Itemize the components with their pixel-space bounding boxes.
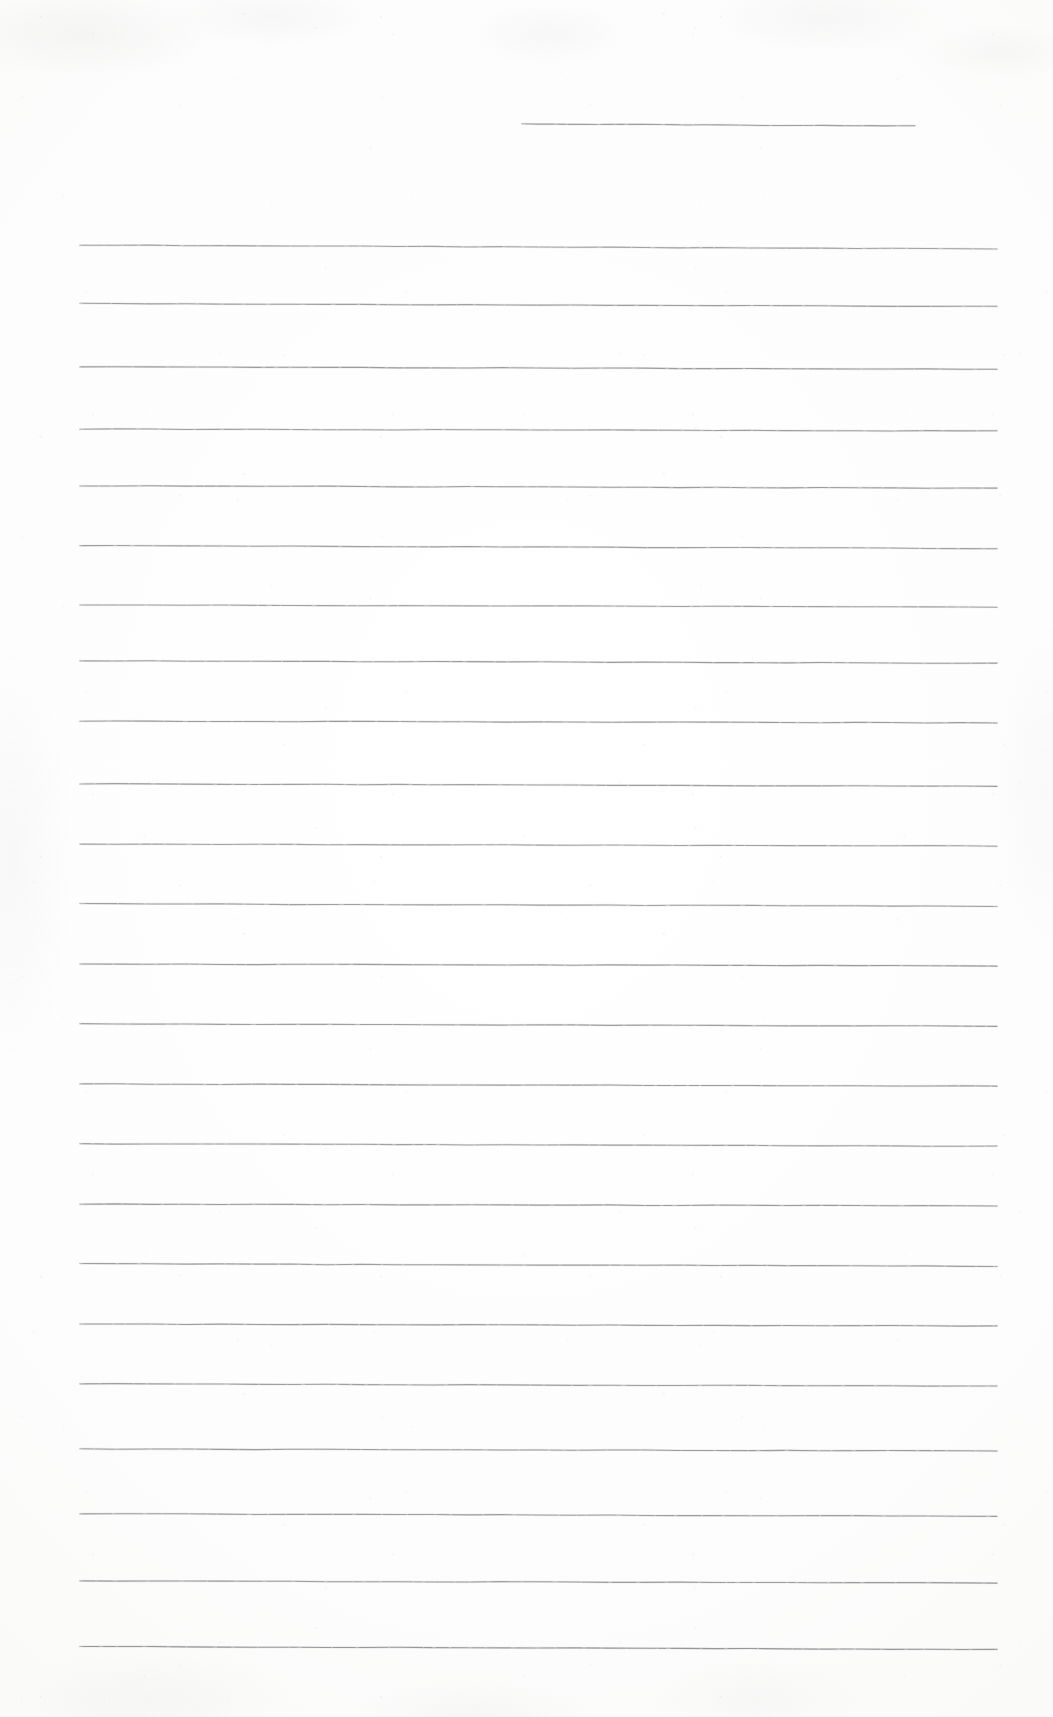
rule-line <box>80 481 997 496</box>
rule-line <box>80 1079 997 1093</box>
rule-line <box>80 241 997 257</box>
rule-line-ink <box>80 1319 997 1333</box>
rule-line <box>80 362 997 377</box>
rule-line-ink <box>80 899 997 914</box>
rule-line-ink <box>80 1509 997 1524</box>
rule-line <box>80 899 997 914</box>
rule-line-ink <box>80 481 997 496</box>
rule-line-ink <box>80 1642 997 1657</box>
rule-line-ink <box>80 299 997 314</box>
rule-line <box>80 716 997 730</box>
rule-line-ink <box>80 1079 997 1093</box>
rule-line-ink <box>80 241 997 257</box>
rule-line <box>80 424 997 438</box>
rule-line <box>80 656 997 671</box>
rule-line-ink <box>80 716 997 730</box>
rule-line-ink <box>80 600 997 614</box>
rule-line <box>80 839 997 853</box>
rule-line <box>80 299 997 314</box>
rule-line-ink <box>80 656 997 671</box>
scanned-page <box>0 0 1053 1717</box>
rule-line-ink <box>80 1444 997 1458</box>
rule-line <box>80 1576 997 1590</box>
rule-line-ink <box>80 424 997 438</box>
rule-line-ink <box>80 1139 997 1154</box>
rule-line <box>80 1019 997 1034</box>
rule-line <box>80 959 997 973</box>
rule-line-ink <box>80 1019 997 1034</box>
rule-line <box>80 1139 997 1154</box>
rule-line <box>80 600 997 614</box>
rule-line-ink <box>80 959 997 973</box>
rule-line-ink <box>80 1259 997 1274</box>
rule-line <box>80 1379 997 1394</box>
rule-line <box>80 779 997 794</box>
rule-line <box>80 541 997 556</box>
rule-line-partial <box>522 119 915 133</box>
rule-line-ink <box>80 839 997 853</box>
rule-line <box>80 1199 997 1213</box>
rule-line-ink <box>80 541 997 556</box>
rule-line <box>80 1319 997 1333</box>
rule-line <box>80 1509 997 1524</box>
rule-line <box>80 1642 997 1657</box>
rule-line-ink <box>80 779 997 794</box>
rule-line <box>80 1444 997 1458</box>
rule-line <box>80 1259 997 1274</box>
ruled-lines-layer <box>0 0 1053 1717</box>
rule-line-ink <box>80 362 997 377</box>
rule-line-ink <box>80 1199 997 1213</box>
rule-line-ink <box>522 119 915 133</box>
rule-line-ink <box>80 1379 997 1394</box>
rule-line-ink <box>80 1576 997 1590</box>
